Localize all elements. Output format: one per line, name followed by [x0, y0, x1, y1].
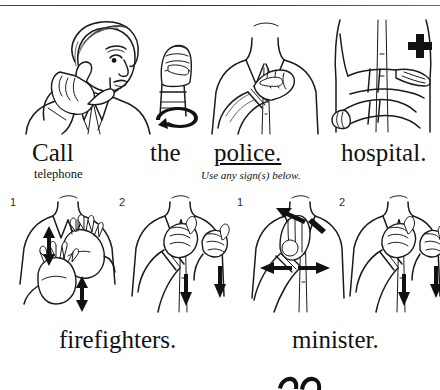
- word-call: Call: [32, 140, 74, 165]
- illustration-footer-partial-hand: [272, 372, 330, 390]
- caption-use-any-sign: Use any sign(s) below.: [201, 170, 300, 181]
- word-hospital: hospital.: [341, 140, 426, 165]
- illustration-call-telephone: [18, 16, 158, 134]
- step-number-firefighters-2: 2: [119, 197, 125, 208]
- illustration-minister-step-2: [348, 196, 440, 312]
- illustration-hospital-cross-sign: [330, 14, 436, 132]
- step-number-firefighters-1: 1: [10, 197, 16, 208]
- word-firefighters: firefighters.: [59, 327, 176, 352]
- word-the: the: [150, 140, 181, 165]
- illustration-minister-step-1: [246, 196, 346, 312]
- top-horizontal-rule: [0, 5, 440, 6]
- illustration-the-fist-rotate: [148, 32, 208, 132]
- step-number-minister-2: 2: [339, 197, 345, 208]
- illustration-firefighters-step-2: [128, 196, 228, 312]
- word-police: police.: [214, 140, 281, 165]
- step-number-minister-1: 1: [237, 197, 243, 208]
- illustration-police-badge-sign: [204, 12, 324, 134]
- caption-telephone: telephone: [34, 168, 83, 181]
- illustration-firefighters-step-1: [18, 196, 118, 312]
- word-minister: minister.: [292, 327, 379, 352]
